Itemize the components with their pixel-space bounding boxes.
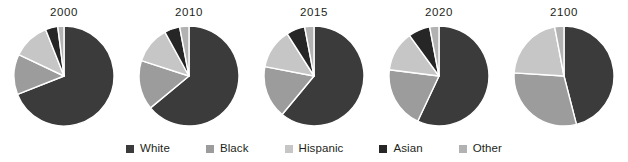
pie-chart-year-label: 2020 bbox=[425, 7, 453, 19]
pie-chart-year-label: 2000 bbox=[50, 7, 78, 19]
pie-chart bbox=[262, 24, 366, 128]
legend-item-white: White bbox=[126, 143, 170, 155]
legend-label: Hispanic bbox=[299, 143, 344, 155]
pie-chart-panel: 2010 bbox=[131, 0, 247, 128]
legend-swatch-icon bbox=[285, 145, 293, 153]
legend-label: Black bbox=[220, 143, 249, 155]
pie-chart-figure: 20002010201520202100 WhiteBlackHispanicA… bbox=[0, 0, 628, 162]
legend-swatch-icon bbox=[206, 145, 214, 153]
legend-swatch-icon bbox=[459, 145, 467, 153]
pie-chart-panel: 2020 bbox=[381, 0, 497, 128]
legend-item-hispanic: Hispanic bbox=[285, 143, 344, 155]
pie-chart-year-label: 2015 bbox=[300, 7, 328, 19]
pie-chart bbox=[137, 24, 241, 128]
legend-item-other: Other bbox=[459, 143, 502, 155]
legend-label: Other bbox=[473, 143, 502, 155]
pie-chart-panel: 2015 bbox=[256, 0, 372, 128]
legend-label: White bbox=[140, 143, 170, 155]
pie-chart-panel: 2100 bbox=[506, 0, 622, 128]
pie-chart bbox=[12, 24, 116, 128]
pie-chart bbox=[387, 24, 491, 128]
pie-chart-row: 20002010201520202100 bbox=[0, 0, 628, 136]
legend-label: Asian bbox=[393, 143, 422, 155]
legend-swatch-icon bbox=[126, 145, 134, 153]
pie-chart-year-label: 2100 bbox=[550, 7, 578, 19]
legend-item-black: Black bbox=[206, 143, 249, 155]
pie-chart bbox=[512, 24, 616, 128]
pie-chart-panel: 2000 bbox=[6, 0, 122, 128]
legend-swatch-icon bbox=[379, 145, 387, 153]
pie-chart-year-label: 2010 bbox=[175, 7, 203, 19]
chart-legend: WhiteBlackHispanicAsianOther bbox=[0, 136, 628, 162]
legend-item-asian: Asian bbox=[379, 143, 422, 155]
